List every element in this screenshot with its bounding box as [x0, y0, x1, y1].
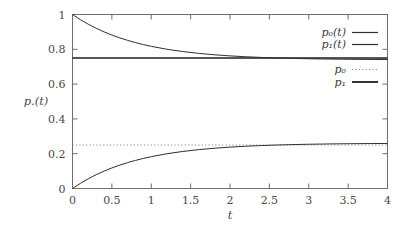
y-tick-label: 0 — [59, 183, 66, 196]
y-tick-label: 0.4 — [48, 113, 66, 126]
legend-label-p1-of-t: p₁(t) — [322, 38, 346, 51]
y-tick-label: 0.2 — [48, 148, 66, 161]
x-tick-label: 2 — [227, 194, 234, 207]
x-tick-label: 4 — [384, 194, 391, 207]
legend-group-lower: p₀ p₁ — [335, 63, 378, 89]
x-tick-labels: 00.511.522.533.54 — [69, 194, 391, 207]
curve-p1-of-t — [73, 143, 388, 188]
y-tick-label: 0.8 — [48, 43, 66, 56]
legend-label-p0: p₀ — [335, 63, 347, 76]
x-tick-label: 0 — [69, 194, 76, 207]
y-tick-labels: 00.20.40.60.81 — [48, 9, 66, 196]
x-axis-title: t — [228, 208, 233, 222]
x-tick-label: 3.5 — [339, 194, 357, 207]
x-tick-label: 3 — [305, 194, 312, 207]
legend-label-p1: p₁ — [335, 76, 346, 89]
chart-figure: 00.511.522.533.54 00.20.40.60.81 t p.(t)… — [0, 0, 411, 229]
x-tick-label: 0.5 — [103, 194, 121, 207]
legend-group-upper: p₀(t) p₁(t) — [322, 26, 378, 51]
y-tick-label: 1 — [59, 9, 66, 22]
y-axis-title: p.(t) — [24, 94, 49, 108]
x-tick-label: 1 — [148, 194, 155, 207]
y-tick-label: 0.6 — [48, 78, 66, 91]
x-tick-label: 2.5 — [261, 194, 279, 207]
plot-canvas: 00.511.522.533.54 00.20.40.60.81 t p.(t)… — [0, 0, 411, 229]
x-tick-label: 1.5 — [182, 194, 200, 207]
